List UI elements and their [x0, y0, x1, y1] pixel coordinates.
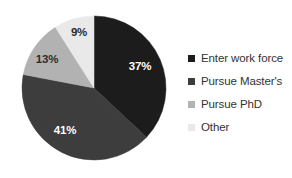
pie-slice-label: 37%: [129, 60, 151, 72]
pie-svg: 37%41%13%9%: [0, 0, 180, 178]
legend-item-label: Other: [201, 121, 229, 134]
legend-item-other[interactable]: Other: [188, 116, 292, 139]
legend-swatch-icon: [188, 124, 195, 131]
pie-slice-label: 41%: [54, 124, 76, 136]
legend-item-pursue-masters[interactable]: Pursue Master's: [188, 70, 292, 93]
legend-item-pursue-phd[interactable]: Pursue PhD: [188, 93, 292, 116]
legend-item-enter-work-force[interactable]: Enter work force: [188, 47, 292, 70]
legend-item-label: Pursue Master's: [201, 75, 282, 88]
legend-swatch-icon: [188, 55, 195, 62]
pie-slice-label: 13%: [36, 53, 58, 65]
pie-chart: 37%41%13%9% Enter work force Pursue Mast…: [0, 0, 292, 178]
chart-legend: Enter work force Pursue Master's Pursue …: [188, 47, 292, 139]
legend-item-label: Enter work force: [201, 52, 283, 65]
legend-swatch-icon: [188, 101, 195, 108]
pie-slice-group: [22, 16, 166, 160]
legend-item-label: Pursue PhD: [201, 98, 262, 111]
pie-slice-label: 9%: [71, 26, 87, 38]
pie-plot-area: 37%41%13%9%: [0, 0, 180, 178]
legend-swatch-icon: [188, 78, 195, 85]
